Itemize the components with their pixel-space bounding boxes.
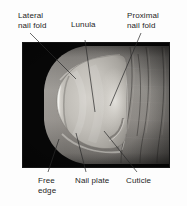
fingertip-photo-graphic — [22, 42, 170, 168]
fingertip-photograph — [22, 42, 170, 168]
label-lateral-nail-fold: Lateral nail fold — [18, 11, 46, 30]
label-nail-plate: Nail plate — [75, 176, 109, 186]
fingernail-anatomy-figure: Lateral nail fold Lunula Proximal nail f… — [0, 0, 187, 206]
photo-vignette — [22, 42, 170, 168]
label-proximal-nail-fold: Proximal nail fold — [127, 11, 159, 30]
label-cuticle: Cuticle — [126, 176, 151, 186]
label-lunula: Lunula — [71, 20, 96, 30]
label-free-edge: Free edge — [38, 176, 56, 195]
